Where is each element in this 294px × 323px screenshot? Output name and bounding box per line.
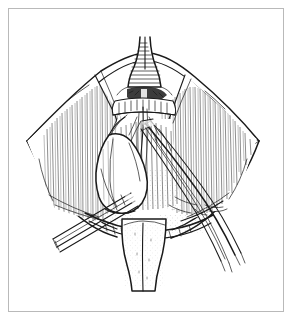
figure-root: Surgical exposure line drawing Black-and…: [0, 0, 294, 323]
anatomical-illustration: Surgical exposure line drawing Black-and…: [9, 9, 283, 311]
transverse-band: [112, 86, 175, 115]
lower-tubular-structure: [122, 219, 166, 291]
